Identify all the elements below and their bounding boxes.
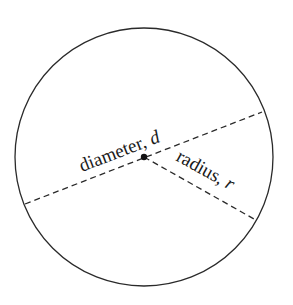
diameter-label: diameter, d (76, 126, 163, 176)
circle-diagram: diameter, d radius, r (0, 0, 293, 305)
center-point (141, 154, 147, 160)
radius-label: radius, r (173, 145, 239, 194)
